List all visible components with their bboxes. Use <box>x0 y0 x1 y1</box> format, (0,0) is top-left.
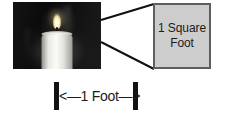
square-foot-box: 1 Square Foot <box>153 3 211 69</box>
square-foot-label: 1 Square Foot <box>156 21 208 51</box>
candle-body <box>42 35 73 69</box>
measurement-bar: <—1 Foot—> <box>54 82 138 110</box>
photo-background-streak-secondary <box>25 29 30 61</box>
callout-line-top <box>101 4 154 20</box>
candle-photo <box>13 2 101 69</box>
candle-square-foot-figure: 1 Square Foot <—1 Foot—> <box>0 0 232 123</box>
measurement-label: <—1 Foot—> <box>59 86 133 106</box>
callout-line-bottom <box>101 42 154 69</box>
